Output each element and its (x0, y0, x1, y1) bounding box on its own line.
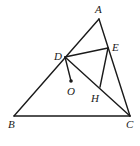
label-h: H (90, 92, 100, 104)
segment-ab (14, 19, 99, 116)
label-d: D (53, 50, 62, 62)
label-o: O (67, 85, 75, 97)
label-c: C (126, 118, 134, 130)
point-o-marker (69, 79, 73, 83)
segment-de (65, 48, 108, 57)
label-b: B (8, 118, 15, 130)
segment-eh (100, 48, 108, 87)
label-a: A (94, 3, 102, 15)
label-e: E (111, 41, 119, 53)
geometry-diagram: A B C D E O H (0, 0, 140, 146)
